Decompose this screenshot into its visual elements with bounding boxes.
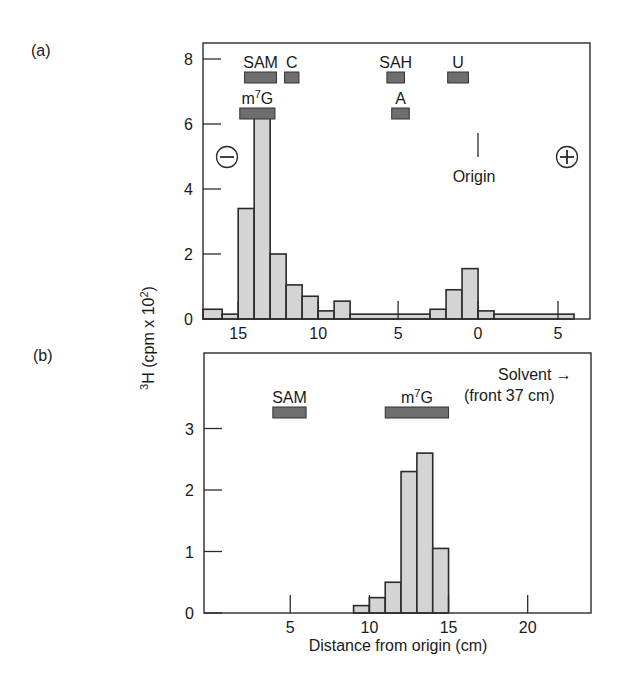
panel-a-marker-sah [387, 72, 405, 83]
panel-b: 0123 5101520 SAMm7G Solvent → (front 37 … [185, 353, 591, 654]
panel-a-marker-label-m7g: m7G [241, 88, 273, 107]
panel-a-marker-label-c: C [286, 54, 298, 71]
panel-a-bar-9 [350, 314, 430, 319]
panel-a-x-tick-label-3: 0 [474, 325, 483, 342]
panel-label-a: (a) [31, 42, 51, 59]
panel-b-bar-4 [417, 453, 433, 613]
panel-b-marker-label-m7g: m7G [401, 387, 433, 406]
y-axis-label: 3H (cpm x 102) [138, 286, 157, 390]
panel-a-bar-14 [494, 314, 574, 319]
panel-b-bars [354, 453, 449, 613]
panel-b-x-tick-label-0: 5 [286, 619, 295, 636]
panel-a-markers: SAMCSAHUm7GA [240, 54, 469, 119]
panel-a-bar-10 [430, 309, 446, 319]
panel-a-bar-7 [318, 311, 334, 319]
panel-b-bar-5 [433, 548, 449, 613]
panel-b-x-tick-label-2: 15 [440, 619, 458, 636]
panel-a-marker-c [285, 72, 299, 83]
panel-a-y-tick-label-2: 4 [184, 181, 193, 198]
panel-b-marker-label-sam: SAM [272, 389, 307, 406]
solvent-label: Solvent → [498, 366, 572, 383]
panel-a-bar-2 [238, 209, 254, 320]
panel-a-marker-label-u: U [452, 54, 464, 71]
y-axis-label-close: ) [140, 286, 157, 291]
panel-a-marker-a [392, 108, 410, 119]
panel-a-y-tick-label-0: 0 [184, 311, 193, 328]
panel-b-y-tick-label-3: 3 [185, 421, 194, 438]
panel-a-marker-sam [245, 72, 277, 83]
minus-electrode-icon [217, 147, 238, 168]
panel-b-y-tick-label-2: 2 [185, 482, 194, 499]
panel-a-bar-8 [334, 301, 350, 319]
panel-b-bar-3 [401, 472, 417, 613]
panel-b-markers: SAMm7G [272, 387, 448, 418]
panel-b-y-tick-label-1: 1 [185, 544, 194, 561]
panel-b-x-tick-label-1: 10 [361, 619, 379, 636]
panel-a-marker-u [448, 72, 469, 83]
panel-a-x-tick-label-0: 15 [229, 325, 247, 342]
x-axis-label-b: Distance from origin (cm) [309, 637, 488, 654]
panel-b-bar-1 [369, 598, 385, 613]
panel-b-marker-m7g [385, 407, 448, 418]
panel-a-x-tick-label-2: 5 [394, 325, 403, 342]
solvent-front-label: (front 37 cm) [464, 387, 555, 404]
panel-b-marker-sam [273, 407, 306, 418]
panel-b-y-tick-label-0: 0 [185, 605, 194, 622]
plus-electrode-icon [557, 147, 578, 168]
panel-a-y-tick-label-4: 8 [184, 51, 193, 68]
panel-a-bars [203, 114, 574, 319]
panel-a: 02468 1510505 SAMCSAHUm7GA Origin [184, 43, 590, 342]
panel-a-marker-m7g [240, 108, 275, 119]
panel-b-x-tick-label-3: 20 [519, 619, 537, 636]
panel-a-marker-label-sah: SAH [379, 54, 412, 71]
panel-a-x-tick-label-1: 10 [309, 325, 327, 342]
panel-a-y-tick-label-3: 6 [184, 116, 193, 133]
panel-a-bar-13 [478, 311, 494, 319]
panel-a-bar-11 [446, 290, 462, 319]
origin-label: Origin [453, 168, 496, 185]
panel-a-bar-5 [286, 285, 302, 319]
panel-label-b: (b) [33, 347, 53, 364]
panel-a-bar-1 [222, 314, 238, 319]
panel-a-y-tick-label-1: 2 [184, 246, 193, 263]
panel-a-bar-6 [302, 296, 318, 319]
y-axis-label-main: H (cpm x 10 [140, 297, 157, 383]
panel-a-bar-12 [462, 269, 478, 319]
figure: (a) (b) 3H (cpm x 102) 02468 1510505 SAM… [0, 0, 623, 690]
panel-a-x-tick-label-4: 5 [554, 325, 563, 342]
panel-a-bar-3 [254, 114, 270, 319]
panel-a-marker-label-a: A [395, 90, 406, 107]
panel-a-marker-label-sam: SAM [243, 54, 278, 71]
panel-a-bar-0 [203, 309, 222, 319]
panel-b-bar-0 [354, 606, 370, 613]
panel-a-bar-4 [270, 254, 286, 319]
panel-b-bar-2 [385, 582, 401, 613]
